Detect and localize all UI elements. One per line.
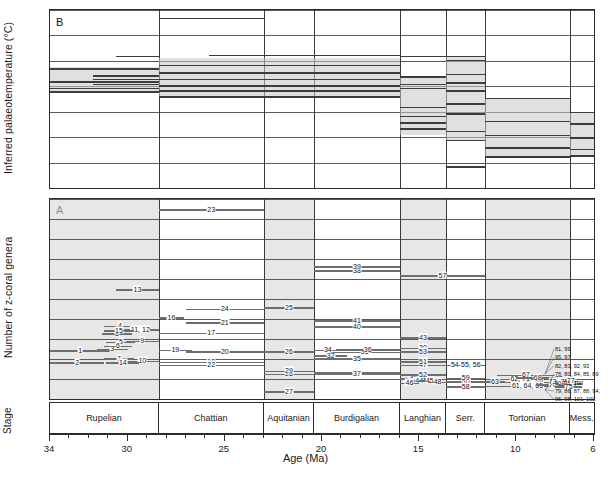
coral-fauna-number: 58 [461,382,470,389]
x-tick-minor [535,434,536,438]
y-tick-mark [49,379,50,380]
x-tick-major [127,434,128,441]
temperature-envelope-band [446,56,485,140]
coral-fauna-number: 46 [405,379,414,386]
coral-fauna-number: 27 [285,387,294,394]
temperature-range-bar [50,68,159,70]
coral-fauna-number: 15 [115,326,124,333]
coral-fauna-number: 22 [207,361,216,368]
y-tick-mark [49,199,50,200]
temperature-range-bar [446,74,485,76]
stage-boundary-line [570,10,571,188]
stage-cell-burdigalian[interactable]: Burdigalian [314,403,399,433]
x-tick-minor [574,434,575,438]
temperature-range-bar [485,98,570,100]
y-tick-mark [49,339,50,340]
gridline [50,219,594,220]
coral-fauna-number: 53 [419,347,428,354]
stage-cell-langhian[interactable]: Langhian [400,403,447,433]
gridline [50,35,594,36]
temperature-range-bar [485,135,570,137]
coral-fauna-number: 37 [353,370,362,377]
stage-boundary-line [400,199,401,399]
gridline [50,199,594,200]
x-tick-minor [379,434,380,438]
panel-b-letter: B [56,16,63,28]
temperature-range-bar [485,147,570,149]
y-tick-mark [49,112,50,113]
temperature-range-bar [400,88,447,90]
gridline [50,188,594,189]
temperature-range-bar [116,56,159,58]
y-tick-mark [49,188,50,189]
coral-fauna-number: 63 [491,377,500,384]
legend-taxa-list: 81, 99 [555,346,571,353]
temperature-range-bar [159,96,400,98]
x-tick-label: 30 [121,443,132,454]
y-tick-mark [49,219,50,220]
y-tick-mark [49,399,50,400]
stage-cell-rupelian[interactable]: Rupelian [50,403,159,433]
temperature-range-bar [485,156,570,158]
temperature-range-bar [400,56,485,58]
stage-boundary-line [159,10,160,188]
coral-fauna-number: 48 [433,378,442,385]
gridline [50,239,594,240]
x-tick-minor [438,434,439,438]
x-tick-label: 25 [219,443,230,454]
coral-fauna-number: 6 [116,342,121,349]
stage-cell-chattian[interactable]: Chattian [159,403,264,433]
y-tick-mark [49,137,50,138]
temperature-range-bar [93,75,159,77]
temperature-range-bar [446,131,485,133]
x-tick-minor [399,434,400,438]
x-tick-minor [263,434,264,438]
x-tick-minor [302,434,303,438]
x-tick-label: 15 [413,443,424,454]
x-tick-minor [146,434,147,438]
temperature-range-bar [400,116,447,118]
y-tick-mark [49,61,50,62]
coral-fauna-number: 21 [220,318,229,325]
y-tick-mark [49,259,50,260]
temperature-range-bar [570,137,594,139]
temperature-range-bar [446,113,485,115]
temperature-range-bar [159,72,400,74]
temperature-range-bar [400,84,447,86]
temperature-range-bar [570,155,594,157]
temperature-range-bar [446,103,485,105]
stage-boundary-line [264,10,265,188]
x-tick-minor [360,434,361,438]
gridline [50,259,594,260]
stage-axis-label: Stage [2,404,13,438]
x-tick-minor [204,434,205,438]
temperature-range-bar [93,79,159,81]
x-tick-major [515,434,516,441]
x-tick-label: 34 [44,443,55,454]
gridline [50,399,594,400]
temperature-range-bar [570,123,594,125]
figure-root: Inferred palaeotemperature (°C) Number o… [0,0,611,477]
coral-fauna-number: 34 [323,346,332,353]
coral-fauna-number: 16 [167,313,176,320]
stage-boundary-line [485,199,486,399]
legend-taxa-list: 95, 97 [555,354,571,361]
temperature-range-bar [159,18,264,20]
x-tick-major [593,434,594,441]
temperature-range-bar [400,76,447,78]
stage-boundary-line [159,199,160,399]
stage-cell-aquitanian[interactable]: Aquitanian [264,403,315,433]
x-tick-minor [457,434,458,438]
coral-fauna-number: 54-55, 56 [450,361,481,368]
coral-fauna-number: 17 [207,329,216,336]
stage-cell-serr[interactable]: Serr. [446,403,485,433]
temperature-range-bar [485,121,570,123]
coral-fauna-number: 35 [353,354,362,361]
coral-fauna-number: 9 [140,337,145,344]
temperature-range-bar [570,112,594,114]
coral-fauna-number: 39 [353,262,362,269]
panel-a-plot-area: A 051015202530354045501234567891011, 121… [49,198,595,400]
panel-b-plot-area: B 1516171819202122 [49,9,595,189]
coral-fauna-number: 40 [353,322,362,329]
x-tick-major [49,434,50,441]
